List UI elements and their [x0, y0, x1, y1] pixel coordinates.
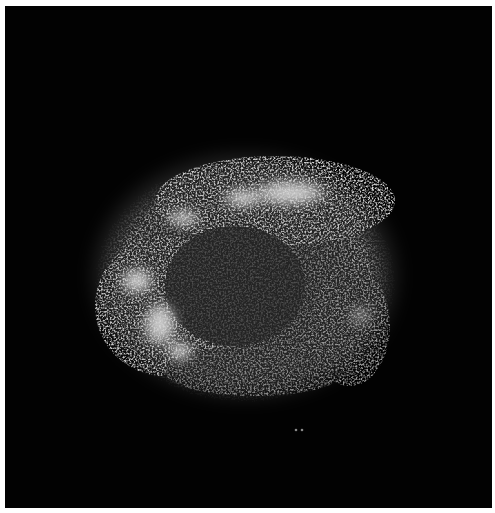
point-sources [295, 429, 304, 432]
supernova-remnant-image [5, 6, 492, 508]
image-frame [5, 6, 492, 508]
